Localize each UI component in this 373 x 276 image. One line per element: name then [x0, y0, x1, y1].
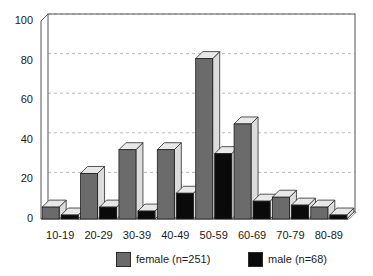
y-tick-label-0: 0 — [0, 212, 33, 224]
bar-front-face — [61, 215, 78, 219]
y-tick-label-20: 20 — [0, 172, 33, 184]
y-tick-label-100: 100 — [0, 14, 33, 26]
legend-label-male: male (n=68) — [268, 253, 327, 265]
legend-label-female: female (n=251) — [136, 253, 210, 265]
bar-front-face — [176, 193, 193, 219]
bar-front-face — [291, 205, 308, 219]
x-tick-label-80-89: 80-89 — [303, 229, 355, 241]
axis-depth-edge-top — [41, 14, 48, 21]
legend-swatch-male — [248, 252, 263, 267]
bar-front-face — [119, 150, 136, 219]
y-tick-label-40: 40 — [0, 133, 33, 145]
bar-front-face — [42, 207, 59, 219]
bar-front-face — [157, 150, 174, 219]
bar-chart: 020406080100 10-1920-2930-3940-4950-5960… — [0, 0, 373, 276]
bar-front-face — [330, 215, 347, 219]
bar-female-30-39 — [119, 143, 143, 219]
y-tick-label-80: 80 — [0, 54, 33, 66]
legend-swatch-female — [116, 252, 131, 267]
bar-front-face — [272, 197, 289, 219]
bar-front-face — [234, 124, 251, 219]
bar-group — [42, 52, 354, 219]
bar-front-face — [311, 207, 328, 219]
bar-front-face — [215, 154, 232, 219]
bar-front-face — [100, 207, 117, 219]
bar-front-face — [196, 59, 213, 219]
y-tick-label-60: 60 — [0, 93, 33, 105]
bar-front-face — [81, 173, 98, 219]
bar-front-face — [253, 201, 270, 219]
bar-front-face — [138, 211, 155, 219]
